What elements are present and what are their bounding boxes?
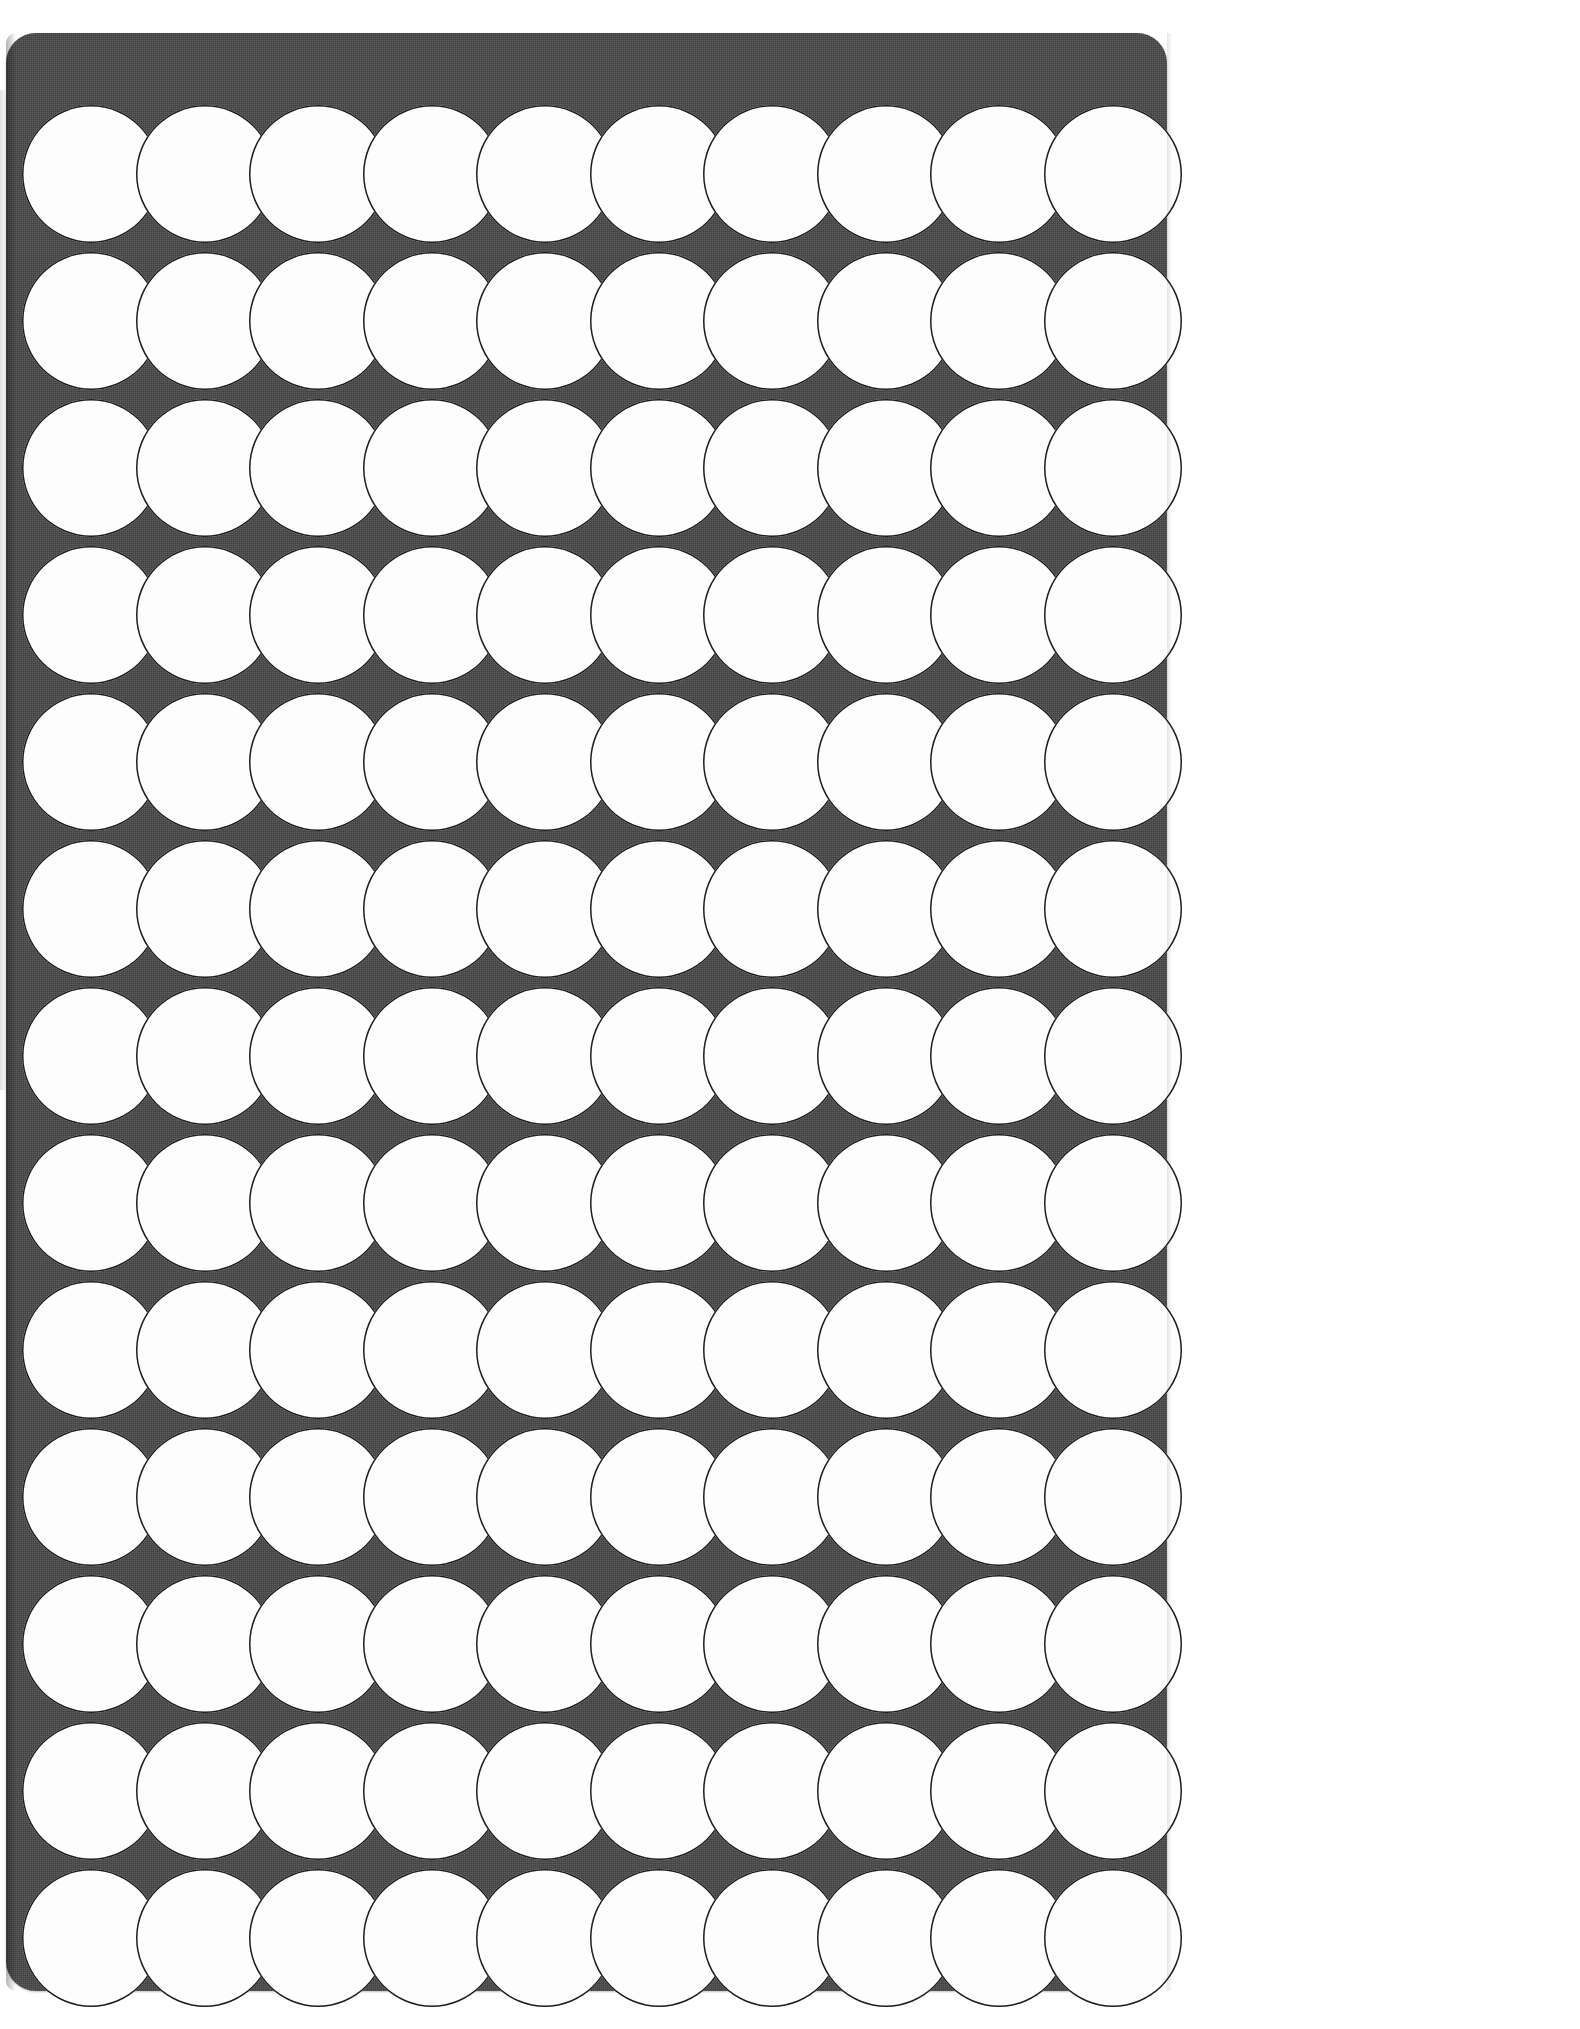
canvas xyxy=(0,0,1580,2029)
hole-J2[interactable] xyxy=(1044,252,1182,390)
hole-J9[interactable] xyxy=(1044,1281,1182,1419)
hole-grid xyxy=(6,33,1167,1991)
hole-J3[interactable] xyxy=(1044,399,1182,537)
hole-J10[interactable] xyxy=(1044,1428,1182,1566)
hole-J13[interactable] xyxy=(1044,1869,1182,2007)
hole-J6[interactable] xyxy=(1044,840,1182,978)
paper-edge-shadow-right xyxy=(1167,33,1172,1991)
hole-J8[interactable] xyxy=(1044,1134,1182,1272)
hole-J7[interactable] xyxy=(1044,987,1182,1125)
hole-J4[interactable] xyxy=(1044,546,1182,684)
hole-J1[interactable] xyxy=(1044,105,1182,243)
hole-J11[interactable] xyxy=(1044,1575,1182,1713)
hole-J5[interactable] xyxy=(1044,693,1182,831)
hole-J12[interactable] xyxy=(1044,1722,1182,1860)
perforated-plate[interactable] xyxy=(6,33,1167,1991)
